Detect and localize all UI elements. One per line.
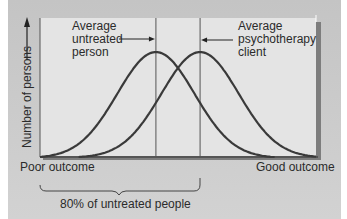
x-end-label-right: Good outcome <box>256 160 335 174</box>
annotation-untreated-line-3: person <box>72 45 109 59</box>
x-end-label-left: Poor outcome <box>20 160 95 174</box>
annotation-client-line-2: psychotherapy <box>238 32 316 46</box>
annotation-client-line-3: client <box>238 45 267 59</box>
annotation-untreated-line-2: untreated <box>72 32 123 46</box>
annotation-client-line-1: Average <box>238 19 283 33</box>
brace-label: 80% of untreated people <box>60 197 191 211</box>
annotation-untreated-line-1: Average <box>72 19 117 33</box>
y-axis-label: Number of persons <box>20 46 34 148</box>
chart: Number of persons Averageuntreatedperson… <box>0 0 347 219</box>
